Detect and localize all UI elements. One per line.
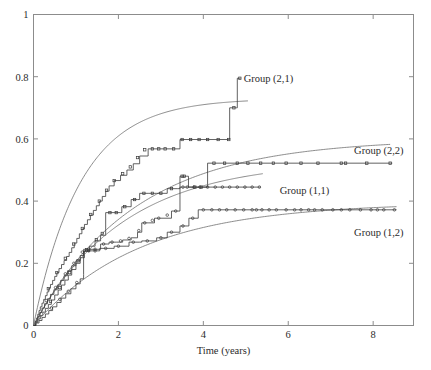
step-curve-4 (34, 210, 397, 326)
series-label-1: Group (2,1) (244, 73, 294, 85)
series-label-4: Group (1,2) (354, 227, 404, 239)
fit-curve-3 (34, 174, 263, 326)
figure-container: 0246800.20.40.60.81Time (years)Group (2,… (0, 0, 431, 370)
x-tick-label: 4 (201, 329, 207, 340)
censor-marker (129, 166, 131, 168)
y-tick-label: 0.2 (15, 258, 28, 269)
censor-marker (138, 229, 141, 232)
y-tick-label: 0.4 (15, 196, 29, 207)
y-tick-label: 0.8 (15, 72, 28, 83)
censor-marker (64, 257, 66, 259)
censor-marker (166, 214, 169, 217)
x-tick-label: 0 (31, 329, 36, 340)
fit-curve-1 (34, 101, 248, 326)
x-tick-label: 2 (116, 329, 121, 340)
step-curve-2 (34, 163, 393, 325)
plot-frame (34, 15, 414, 326)
censor-marker (121, 173, 123, 175)
y-tick-label: 0.6 (15, 134, 28, 145)
figure-caption-fragment (4, 361, 429, 370)
censor-marker (136, 156, 138, 158)
x-tick-label: 8 (371, 329, 376, 340)
cumulative-incidence-chart: 0246800.20.40.60.81Time (years)Group (2,… (0, 0, 431, 370)
series-label-2: Group (2,2) (354, 145, 404, 157)
y-tick-label: 0 (23, 320, 28, 331)
x-tick-label: 6 (286, 329, 291, 340)
series-label-3: Group (1,1) (280, 185, 330, 197)
censor-marker (151, 219, 154, 222)
fit-curve-4 (34, 207, 397, 326)
censor-marker (144, 149, 146, 151)
step-curve-1 (34, 78, 241, 325)
y-tick-label: 1 (23, 9, 28, 20)
censor-marker (59, 286, 61, 288)
x-axis-label: Time (years) (197, 345, 251, 357)
censor-marker (128, 237, 131, 240)
